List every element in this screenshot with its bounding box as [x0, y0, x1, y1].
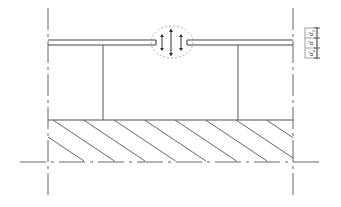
technical-drawing: d1 d da [0, 0, 341, 207]
label-d: d [307, 41, 314, 45]
hatch-line [114, 120, 176, 161]
hatch-line [206, 120, 268, 161]
hatched-base [20, 120, 324, 162]
hatch-line [145, 120, 207, 161]
hatch-line [84, 120, 146, 161]
label-d1: d1 [307, 30, 316, 36]
hatch-line [175, 120, 237, 161]
hatch-line [53, 120, 115, 161]
hatch-line [236, 120, 293, 158]
right-gap-arrow-icon [179, 34, 183, 51]
label-da: da [307, 49, 316, 56]
top-rail-right [187, 40, 293, 45]
dimension-labels: d1 d da [305, 27, 320, 59]
hatch-line [267, 120, 294, 138]
center-tolerance-arrow-icon [169, 29, 173, 57]
top-rail-left [48, 40, 156, 45]
left-gap-arrow-icon [160, 34, 164, 51]
hatch-line [48, 137, 84, 161]
hatch-lines [48, 120, 293, 161]
